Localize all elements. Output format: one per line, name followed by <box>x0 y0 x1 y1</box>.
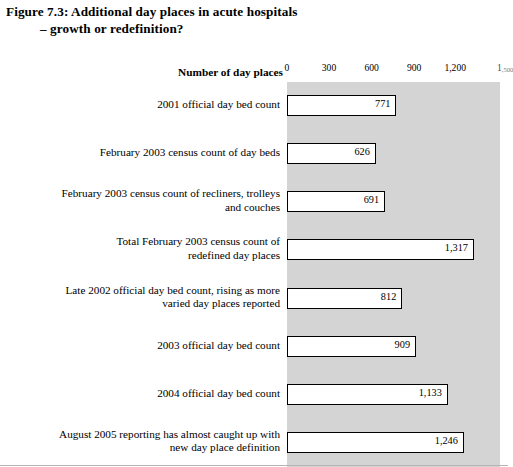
bar-container: 909 <box>287 336 416 357</box>
bar-row: 2004 official day bed count1,133 <box>0 371 508 419</box>
bar-row-label-line: February 2003 census count of day beds <box>10 146 280 160</box>
bar-value-label: 626 <box>354 146 369 157</box>
bar-rows: 2001 official day bed count771February 2… <box>0 82 508 467</box>
bottom-divider <box>0 465 508 466</box>
bar-row: February 2003 census count of day beds62… <box>0 130 508 178</box>
bar-row-label-line: redefined day places <box>10 249 280 263</box>
bar-container: 1,133 <box>287 384 448 405</box>
bar-value-label: 1,133 <box>419 387 442 398</box>
bar-row-label-line: February 2003 census count of recliners,… <box>10 187 280 201</box>
x-axis-tick-labels: 03006009001,2001,500 <box>287 62 508 80</box>
bar-row-label-line: varied day places reported <box>10 297 280 311</box>
bar-value-label: 1,317 <box>445 242 468 253</box>
bar-row-label-line: 2004 official day bed count <box>10 387 280 401</box>
bar-row: August 2005 reporting has almost caught … <box>0 419 508 467</box>
bar-container: 1,246 <box>287 432 464 453</box>
figure-title: Figure 7.3: Additional day places in acu… <box>6 3 476 37</box>
bar-container: 771 <box>287 95 396 116</box>
x-tick-1200: 1,200 <box>444 62 466 73</box>
bar-row-label: February 2003 census count of recliners,… <box>10 187 280 214</box>
x-tick-300: 300 <box>322 62 336 73</box>
bar-container: 812 <box>287 288 402 309</box>
bar-container: 1,317 <box>287 239 474 260</box>
bar-container: 691 <box>287 191 385 212</box>
bar-row-label-line: 2001 official day bed count <box>10 98 280 112</box>
x-axis-title: Number of day places <box>0 66 283 78</box>
bar-row-label-line: August 2005 reporting has almost caught … <box>10 428 280 442</box>
bar-row: February 2003 census count of recliners,… <box>0 178 508 226</box>
bar-row-label-line: 2003 official day bed count <box>10 339 280 353</box>
bar-value-label: 909 <box>395 339 410 350</box>
bar-row-label-line: new day place definition <box>10 441 280 455</box>
bar-row: 2003 official day bed count909 <box>0 323 508 371</box>
bar-row-label: 2003 official day bed count <box>10 339 280 353</box>
bar-row-label-line: Late 2002 official day bed count, rising… <box>10 284 280 298</box>
bar-row: Total February 2003 census count ofredef… <box>0 226 508 274</box>
bar-row: Late 2002 official day bed count, rising… <box>0 275 508 323</box>
bar-value-label: 1,246 <box>435 435 458 446</box>
x-tick-900: 900 <box>407 62 421 73</box>
bar-row-label: Total February 2003 census count ofredef… <box>10 235 280 262</box>
x-tick-0: 0 <box>284 62 289 73</box>
bar-row-label-line: and couches <box>10 201 280 215</box>
bar-value-label: 691 <box>364 194 379 205</box>
figure-title-line-1: Figure 7.3: Additional day places in acu… <box>6 3 476 20</box>
bar-value-label: 812 <box>381 291 396 302</box>
bar-row-label: 2001 official day bed count <box>10 98 280 112</box>
bar-row: 2001 official day bed count771 <box>0 82 508 130</box>
figure-title-line-2: – growth or redefinition? <box>6 20 476 37</box>
bar-row-label: February 2003 census count of day beds <box>10 146 280 160</box>
bar-row-label: August 2005 reporting has almost caught … <box>10 428 280 455</box>
x-tick-1500: 1,500 <box>497 62 513 73</box>
bar-row-label: Late 2002 official day bed count, rising… <box>10 284 280 311</box>
bar-row-label: 2004 official day bed count <box>10 387 280 401</box>
bar-value-label: 771 <box>375 98 390 109</box>
bar-container: 626 <box>287 143 376 164</box>
bar-row-label-line: Total February 2003 census count of <box>10 235 280 249</box>
x-tick-600: 600 <box>364 62 378 73</box>
chart: Number of day places 03006009001,2001,50… <box>0 44 508 467</box>
